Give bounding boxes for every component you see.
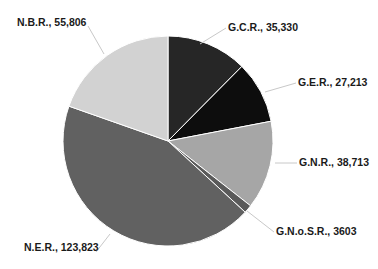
label-gnr: G.N.R., 38,713 bbox=[299, 156, 369, 168]
leader-line bbox=[247, 211, 274, 232]
leader-line bbox=[200, 28, 226, 44]
label-ner: N.E.R., 123,823 bbox=[24, 241, 99, 253]
pie-chart: G.C.R., 35,330 G.E.R., 27,213 G.N.R., 38… bbox=[0, 0, 378, 269]
label-gcr: G.C.R., 35,330 bbox=[228, 21, 298, 33]
pie-slices bbox=[63, 36, 273, 246]
leader-line bbox=[88, 26, 104, 54]
label-gnosr: G.N.o.S.R., 3603 bbox=[276, 225, 357, 237]
leader-line bbox=[265, 83, 296, 92]
label-ger: G.E.R., 27,213 bbox=[298, 76, 368, 88]
label-nbr: N.B.R., 55,806 bbox=[17, 16, 87, 28]
